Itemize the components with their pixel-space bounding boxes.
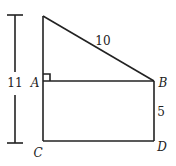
triangle-hypotenuse xyxy=(43,16,154,81)
height-label: 11 xyxy=(7,76,22,90)
right-triangle: 10 xyxy=(43,16,154,81)
rectangle-ABDC: 5 xyxy=(43,81,165,141)
point-label-D: D xyxy=(156,140,167,154)
point-label-C: C xyxy=(33,146,42,160)
point-label-A: A xyxy=(30,76,40,90)
geometry-diagram: 11 10 5 A B C D xyxy=(0,0,176,166)
right-angle-marker xyxy=(43,74,50,81)
point-label-B: B xyxy=(158,76,168,90)
height-dimension: 11 xyxy=(7,15,23,143)
hypotenuse-label: 10 xyxy=(95,34,110,48)
BD-length-label: 5 xyxy=(157,105,165,119)
